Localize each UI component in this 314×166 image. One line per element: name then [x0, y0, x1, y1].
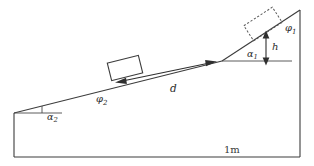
label-baseline-1m: 1m: [224, 144, 240, 155]
inclined-plane-diagram: φ1 φ2 α1 α2 h d 1m: [0, 0, 314, 166]
ground-frame: [14, 10, 300, 157]
distance-arrow-d: [115, 60, 217, 84]
label-phi2: φ2: [96, 93, 108, 107]
label-distance-d: d: [170, 82, 177, 94]
label-phi1: φ1: [285, 22, 296, 36]
diagram-labels: φ1 φ2 α1 α2 h d 1m: [47, 22, 296, 155]
height-arrow-head-bottom: [263, 58, 270, 66]
label-phi1-subscript: 1: [292, 28, 296, 36]
angle-reference-lines: [14, 61, 292, 113]
label-alpha1-subscript: 1: [253, 53, 257, 61]
block-solid: [107, 55, 142, 80]
distance-arrow-shaft: [120, 63, 212, 82]
block-solid-body: [107, 55, 142, 80]
slope-surface: [14, 10, 300, 113]
lower-slope-line: [14, 61, 222, 113]
label-alpha2-subscript: 2: [52, 116, 57, 124]
height-arrow-h: [263, 31, 270, 66]
label-phi2-symbol: φ: [96, 93, 103, 104]
label-phi2-subscript: 2: [102, 99, 108, 107]
block-dashed-body: [244, 7, 282, 41]
label-alpha1: α1: [247, 48, 258, 61]
label-height-h: h: [272, 41, 278, 52]
block-dashed: [244, 7, 282, 41]
label-phi1-symbol: φ: [285, 22, 292, 33]
